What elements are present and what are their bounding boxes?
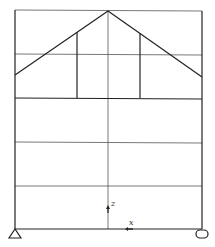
frame-members (15, 10, 202, 229)
tie-beam (15, 98, 202, 99)
x-axis-label: x (129, 218, 134, 227)
x-arrow-head-icon (125, 227, 128, 231)
roller-support (196, 230, 208, 238)
right-rafter (108, 11, 202, 77)
axis-indicators: z x (106, 199, 134, 231)
grid-line-1 (15, 54, 202, 55)
roller-support-icon (196, 230, 208, 238)
grid-line-3 (15, 142, 202, 143)
structural-frame-diagram: z x (0, 0, 215, 247)
grid-lines (15, 10, 202, 229)
left-rafter (15, 11, 108, 75)
z-axis-label: z (110, 199, 116, 208)
pin-support-icon (9, 229, 21, 238)
z-arrow-head-icon (106, 205, 110, 209)
pin-support (9, 229, 21, 238)
